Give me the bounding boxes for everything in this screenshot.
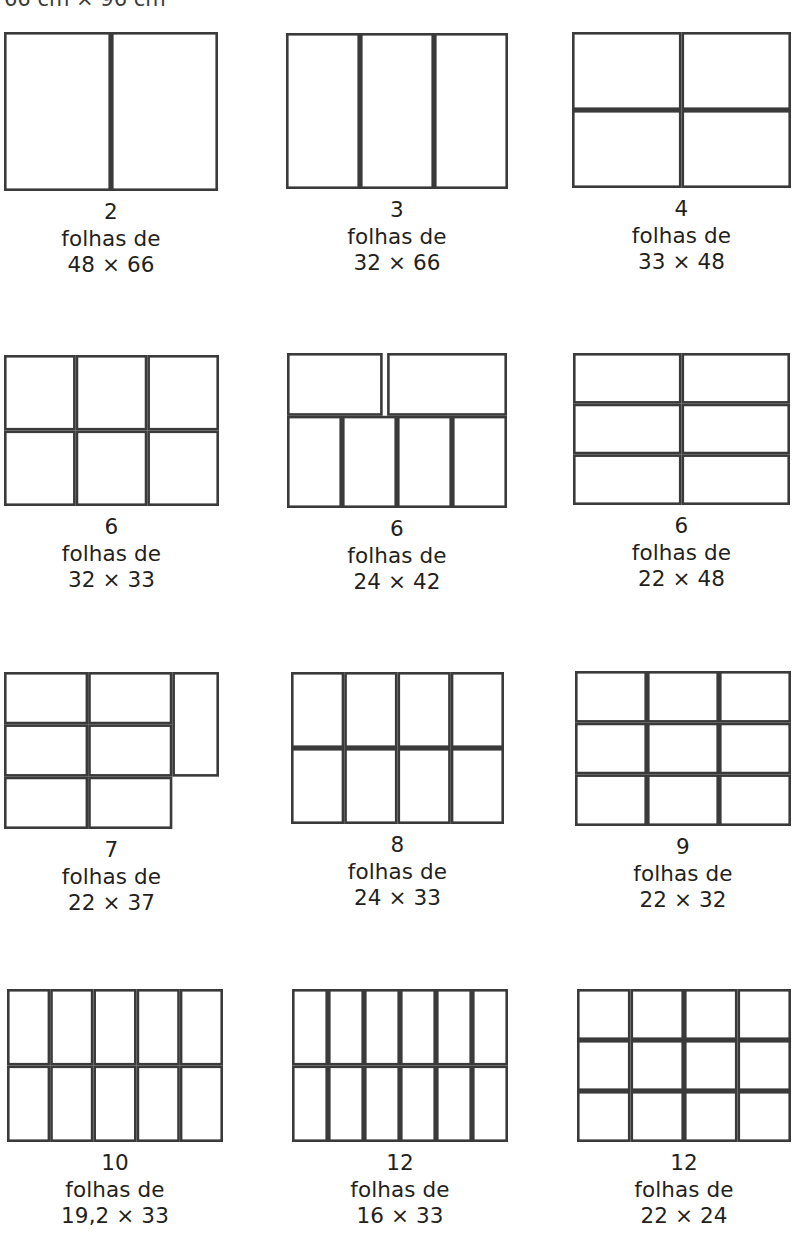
diagram-fig-12-sheets-22x24 xyxy=(577,989,791,1142)
caption-fig-4-sheets: 4folhas de33 × 48 xyxy=(572,196,791,276)
figure-fig-4-sheets: 4folhas de33 × 48 xyxy=(572,32,791,188)
caption-fig-6-sheets-22x48: 6folhas de22 × 48 xyxy=(573,513,790,593)
sheet-layout-svg xyxy=(577,989,791,1142)
figure-fig-10-sheets: 10folhas de19,2 × 33 xyxy=(7,989,223,1142)
sheet-rect xyxy=(5,673,87,723)
sheet-dimensions: 32 × 33 xyxy=(4,567,219,594)
sheet-count: 8 xyxy=(291,832,504,859)
sheet-rect xyxy=(288,354,381,414)
sheet-rect xyxy=(473,990,506,1064)
sheet-rect xyxy=(343,417,395,507)
figure-fig-6-sheets-32x33: 6folhas de32 × 33 xyxy=(4,355,219,506)
sheet-label: folhas de xyxy=(286,224,508,251)
sheet-rect xyxy=(685,1041,736,1089)
sheet-rect xyxy=(578,1092,629,1140)
sheet-rect xyxy=(739,990,790,1038)
sheet-dimensions: 22 × 37 xyxy=(4,890,219,917)
sheet-rect xyxy=(574,405,680,453)
figure-fig-6-sheets-22x48: 6folhas de22 × 48 xyxy=(573,353,790,505)
sheet-rect xyxy=(399,749,450,822)
sheet-rect xyxy=(576,672,645,721)
sheet-label: folhas de xyxy=(577,1177,791,1204)
sheet-dimensions: 22 × 48 xyxy=(573,566,790,593)
sheet-rect xyxy=(683,111,790,186)
sheet-rect xyxy=(293,1067,326,1141)
sheet-rect xyxy=(683,354,789,402)
diagram-fig-6-sheets-22x48 xyxy=(573,353,790,505)
sheet-label: folhas de xyxy=(4,541,219,568)
sheet-rect xyxy=(8,990,49,1064)
sheet-rect xyxy=(720,672,789,721)
sheet-rect xyxy=(632,1041,683,1089)
sheet-label: folhas de xyxy=(572,223,791,250)
sheet-rect xyxy=(574,456,680,504)
sheet-layout-svg xyxy=(287,353,507,508)
diagram-fig-3-sheets xyxy=(286,33,508,189)
sheet-rect xyxy=(388,354,505,414)
sheet-count: 6 xyxy=(4,514,219,541)
sheet-rect xyxy=(632,990,683,1038)
sheet-label: folhas de xyxy=(291,859,504,886)
sheet-rect xyxy=(739,1041,790,1089)
caption-fig-12-sheets-22x24: 12folhas de22 × 24 xyxy=(577,1150,791,1230)
sheet-rect xyxy=(329,1067,362,1141)
sheet-count: 3 xyxy=(286,197,508,224)
sheet-count: 4 xyxy=(572,196,791,223)
sheet-rect xyxy=(138,990,179,1064)
sheet-rect xyxy=(8,1067,49,1141)
sheet-layout-svg xyxy=(573,353,790,505)
sheet-layout-svg xyxy=(4,672,219,829)
sheet-rect xyxy=(346,673,397,746)
sheet-rect xyxy=(89,778,171,828)
sheet-rect xyxy=(578,1041,629,1089)
caption-fig-7-sheets: 7folhas de22 × 37 xyxy=(4,837,219,917)
sheet-rect xyxy=(5,432,74,505)
sheet-layout-svg xyxy=(4,32,218,191)
sheet-rect xyxy=(5,726,87,776)
sheet-rect xyxy=(683,405,789,453)
caption-fig-10-sheets: 10folhas de19,2 × 33 xyxy=(7,1150,223,1230)
caption-fig-9-sheets: 9folhas de22 × 32 xyxy=(575,834,791,914)
sheet-rect xyxy=(5,778,87,828)
sheet-label: folhas de xyxy=(575,861,791,888)
figure-grid: 2folhas de48 × 663folhas de32 × 664folha… xyxy=(0,0,792,1242)
sheet-rect xyxy=(77,356,146,429)
sheet-rect xyxy=(685,990,736,1038)
sheet-rect xyxy=(77,432,146,505)
sheet-label: folhas de xyxy=(4,226,218,253)
sheet-rect xyxy=(95,990,136,1064)
sheet-dimensions: 22 × 32 xyxy=(575,887,791,914)
sheet-dimensions: 24 × 33 xyxy=(291,885,504,912)
figure-fig-7-sheets: 7folhas de22 × 37 xyxy=(4,672,219,829)
sheet-rect xyxy=(52,1067,93,1141)
sheet-layout-svg xyxy=(572,32,791,188)
caption-fig-12-sheets-16x33: 12folhas de16 × 33 xyxy=(292,1150,508,1230)
sheet-count: 12 xyxy=(292,1150,508,1177)
sheet-rect xyxy=(138,1067,179,1141)
sheet-rect xyxy=(399,673,450,746)
sheet-rect xyxy=(95,1067,136,1141)
figure-fig-9-sheets: 9folhas de22 × 32 xyxy=(575,671,791,826)
sheet-dimensions: 32 × 66 xyxy=(286,250,508,277)
sheet-rect xyxy=(437,990,470,1064)
sheet-label: folhas de xyxy=(292,1177,508,1204)
diagram-fig-10-sheets xyxy=(7,989,223,1142)
sheet-rect xyxy=(287,34,358,187)
sheet-rect xyxy=(453,417,505,507)
sheet-layout-svg xyxy=(4,355,219,506)
sheet-label: folhas de xyxy=(4,864,219,891)
diagram-fig-2-sheets xyxy=(4,32,218,191)
figure-fig-8-sheets: 8folhas de24 × 33 xyxy=(291,672,504,824)
sheet-rect xyxy=(573,111,680,186)
sheet-rect xyxy=(437,1067,470,1141)
sheet-rect xyxy=(52,990,93,1064)
sheet-rect xyxy=(573,33,680,108)
sheet-rect xyxy=(720,724,789,773)
sheet-rect xyxy=(288,417,340,507)
sheet-rect xyxy=(452,749,503,822)
sheet-rect xyxy=(89,726,171,776)
sheet-rect xyxy=(292,749,343,822)
sheet-count: 6 xyxy=(287,516,507,543)
sheet-label: folhas de xyxy=(7,1177,223,1204)
sheet-rect xyxy=(293,990,326,1064)
